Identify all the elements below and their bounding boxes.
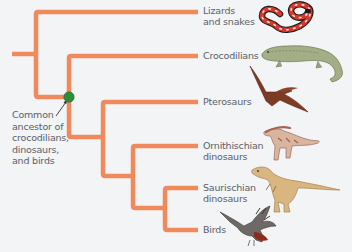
theropod-illustration bbox=[252, 167, 340, 212]
coral-snake-illustration bbox=[262, 4, 311, 29]
branch-saurischian-birds bbox=[165, 188, 198, 230]
branch-pterosaurs bbox=[103, 102, 198, 176]
pterosaur-illustration bbox=[250, 66, 308, 112]
taxon-label-pterosaurs: Pterosaurs bbox=[203, 96, 251, 107]
taxon-label-ornithischian: Ornithischian dinosaurs bbox=[203, 140, 263, 162]
taxon-label-saurischian: Saurischian dinosaurs bbox=[203, 182, 256, 204]
taxon-label-birds: Birds bbox=[203, 224, 226, 235]
taxon-label-lizards: Lizards and snakes bbox=[203, 5, 255, 27]
parasaurolophus-illustration bbox=[264, 127, 319, 160]
taxon-label-crocodilians: Crocodilians bbox=[203, 50, 259, 61]
common-ancestor-caption: Common ancestor of crocodilians, dinosau… bbox=[12, 109, 69, 167]
phylogenetic-tree-diagram: Lizards and snakes Crocodilians Pterosau… bbox=[0, 0, 352, 252]
common-ancestor-node bbox=[64, 92, 74, 102]
branch-crocodilians bbox=[69, 56, 198, 137]
crocodile-illustration bbox=[262, 46, 343, 82]
bird-illustration bbox=[220, 206, 276, 246]
